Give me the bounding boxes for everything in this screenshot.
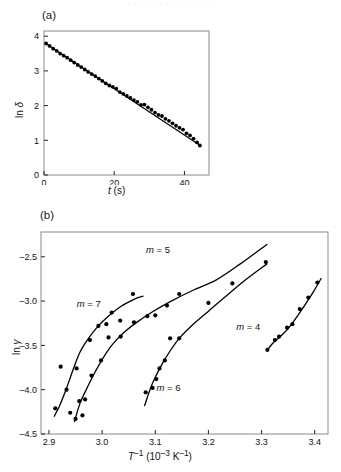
- panel-b-data-point: [154, 377, 158, 381]
- panel-b-curve-label-m6: m = 6: [157, 382, 181, 393]
- panel-b-data-point: [153, 313, 157, 317]
- panel-b-data-point: [96, 324, 100, 328]
- panel-a-data-point: [93, 74, 97, 78]
- panel-b-data-point: [106, 335, 110, 339]
- panel-b-y-tick-label: –4.5: [19, 429, 37, 439]
- panel-a-data-point: [143, 103, 147, 107]
- panel-a-data-point: [62, 54, 66, 58]
- panel-b-data-point: [68, 411, 72, 415]
- panel-a-data-point: [104, 81, 108, 85]
- panel-b-data-point: [132, 320, 136, 324]
- panel-a-svg: 0123402040: [0, 20, 230, 185]
- panel-b-x-axis-title-unit-post: K: [170, 451, 179, 462]
- panel-a-data-point: [76, 63, 80, 67]
- panel-a-y-tick-label: 1: [34, 136, 39, 146]
- panel-b-data-point: [59, 365, 63, 369]
- panel-b-x-axis-title-unit-pre: (10: [143, 451, 160, 462]
- panel-a-data-point: [107, 84, 111, 88]
- panel-a-data-point: [65, 56, 69, 60]
- panel-a-data-point: [188, 134, 192, 138]
- panel-a-data-point: [139, 103, 143, 107]
- panel-a-data-point: [198, 144, 202, 148]
- panel-b-y-tick-label: –3.0: [19, 296, 37, 306]
- panel-a-data-point: [164, 117, 168, 121]
- panel-b-data-point: [264, 260, 268, 264]
- curve-label-symbol: m: [77, 298, 85, 309]
- panel-a-data-point: [181, 128, 185, 132]
- panel-b-tag: (b): [40, 209, 54, 221]
- panel-a-data-point: [121, 92, 125, 96]
- panel-a-x-tick-label: 40: [179, 178, 189, 185]
- panel-a-data-point: [171, 121, 175, 125]
- panel-b-data-point: [145, 314, 149, 318]
- panel-b-data-point: [88, 338, 92, 342]
- panel-b-data-point: [315, 280, 319, 284]
- panel-b-data-point: [53, 406, 57, 410]
- panel-b-curve: [54, 296, 143, 416]
- panel-a-data-point: [118, 90, 122, 94]
- panel-a-data-point: [51, 47, 55, 51]
- panel-b-data-point: [64, 388, 68, 392]
- panel-b-x-tick-label: 3.1: [149, 437, 162, 447]
- panel-a-y-tick-label: 2: [34, 101, 39, 111]
- panel-b-data-point: [89, 373, 93, 377]
- panel-b-y-tick-label: –2.5: [19, 252, 37, 262]
- panel-b-data-point: [73, 417, 77, 421]
- panel-b-data-point: [277, 334, 281, 338]
- panel-b-x-axis-title-unit-end: ): [189, 451, 192, 462]
- panel-b-data-point: [163, 358, 167, 362]
- panel-b-data-point: [157, 366, 161, 370]
- panel-a-plot: 0123402040: [0, 20, 230, 185]
- panel-a-data-point: [90, 72, 94, 76]
- panel-a-data-point: [44, 42, 48, 46]
- panel-b-data-point: [99, 358, 103, 362]
- panel-b-curve-label-m4: m = 4: [236, 321, 260, 332]
- panel-b-data-point: [265, 348, 269, 352]
- panel-b-data-point: [77, 399, 81, 403]
- curve-label-symbol: m: [146, 244, 154, 255]
- panel-b-data-point: [273, 338, 277, 342]
- panel-a-x-tick-label: 0: [41, 178, 46, 185]
- panel-a-data-point: [185, 131, 189, 135]
- panel-b-curve-label-m7: m = 7: [77, 298, 101, 309]
- panel-a-data-point: [125, 94, 129, 98]
- panel-b-content: –2.5–3.0–3.5–4.0–4.52.93.03.13.23.33.4m …: [19, 232, 328, 447]
- panel-b-x-tick-label: 3.3: [255, 437, 268, 447]
- panel-b-x-axis-title: T–1 (10–3 K–1): [128, 448, 192, 462]
- panel-b-y-tick-label: –4.0: [19, 385, 37, 395]
- panel-a-data-point: [160, 114, 164, 118]
- panel-a-data-point: [83, 68, 87, 72]
- panel-b-curve: [74, 244, 266, 421]
- panel-a-data-point: [135, 100, 139, 104]
- panel-b-y-tick-label: –3.5: [19, 341, 37, 351]
- panel-a-data-point: [55, 49, 59, 53]
- panel-a-data-point: [192, 137, 196, 141]
- panel-a-data-point: [114, 87, 118, 91]
- panel-a-x-axis-title-unit: (s): [111, 185, 125, 196]
- panel-b-data-point: [290, 322, 294, 326]
- panel-b-data-point: [168, 336, 172, 340]
- panel-b-data-point: [285, 326, 289, 330]
- curve-label-value: = 6: [164, 382, 180, 393]
- panel-a-data-point: [86, 70, 90, 74]
- panel-b-plot: –2.5–3.0–3.5–4.0–4.52.93.03.13.23.33.4m …: [0, 225, 341, 450]
- curve-label-value: = 4: [244, 321, 260, 332]
- top-cut-text: . . . . . . . . . . . . . .: [0, 0, 341, 6]
- panel-a-data-point: [178, 126, 182, 130]
- panel-a-frame: [44, 31, 209, 175]
- panel-a-data-point: [111, 85, 115, 89]
- figure-root: . . . . . . . . . . . . . . (a) ln δ t (…: [0, 0, 341, 472]
- panel-b-data-point: [165, 303, 169, 307]
- panel-b-data-point: [80, 413, 84, 417]
- panel-a-data-point: [69, 58, 73, 62]
- panel-b-data-point: [110, 311, 114, 315]
- panel-b-data-point: [75, 366, 79, 370]
- panel-a-y-tick-label: 3: [34, 66, 39, 76]
- panel-a-data-point: [167, 119, 171, 123]
- panel-b-data-point: [177, 292, 181, 296]
- panel-a-x-tick-label: 20: [109, 178, 119, 185]
- curve-label-value: = 5: [154, 244, 170, 255]
- panel-a-data-point: [195, 140, 199, 144]
- panel-b-data-point: [298, 307, 302, 311]
- panel-b-data-point: [151, 386, 155, 390]
